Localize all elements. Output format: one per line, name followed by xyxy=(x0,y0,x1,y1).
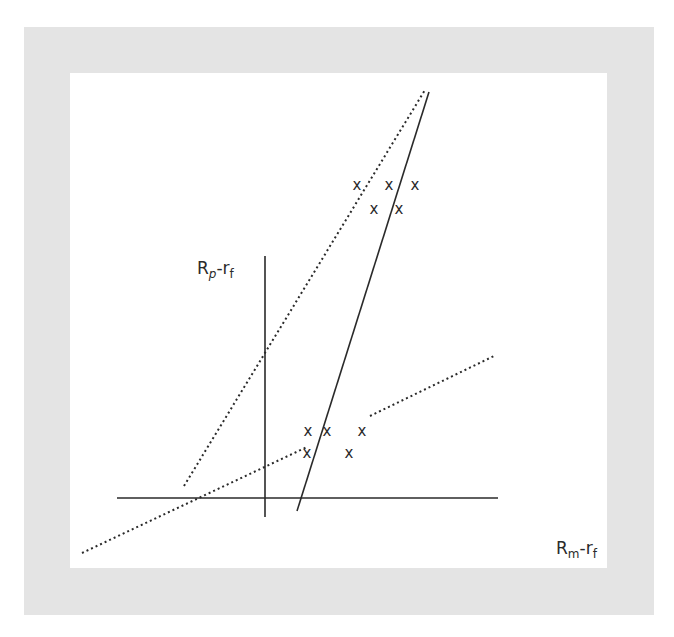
x-label-sub1: m xyxy=(568,547,580,561)
lower-marker: x xyxy=(323,422,332,440)
x-label-sub2: f xyxy=(593,547,597,561)
upper-marker: x xyxy=(385,176,394,194)
lower-dotted-line-right xyxy=(370,356,494,416)
lower-marker: x xyxy=(345,444,354,462)
upper-marker: x xyxy=(395,200,404,218)
upper-marker: x xyxy=(411,176,420,194)
upper-marker: x xyxy=(370,200,379,218)
y-label-dash: -r xyxy=(216,258,229,278)
y-label-main: R xyxy=(197,258,209,278)
x-label-main: R xyxy=(556,538,568,558)
lower-marker: x xyxy=(304,422,313,440)
lower-marker: x xyxy=(358,422,367,440)
upper-marker: x xyxy=(353,176,362,194)
y-axis-label: Rp-rf xyxy=(197,258,234,281)
y-label-sub2: f xyxy=(230,267,234,281)
solid-regression-line xyxy=(297,92,429,511)
x-label-dash: -r xyxy=(580,538,593,558)
lower-marker: x xyxy=(303,444,312,462)
lower-dotted-line-left xyxy=(82,447,307,553)
x-axis-label: Rm-rf xyxy=(556,538,597,561)
